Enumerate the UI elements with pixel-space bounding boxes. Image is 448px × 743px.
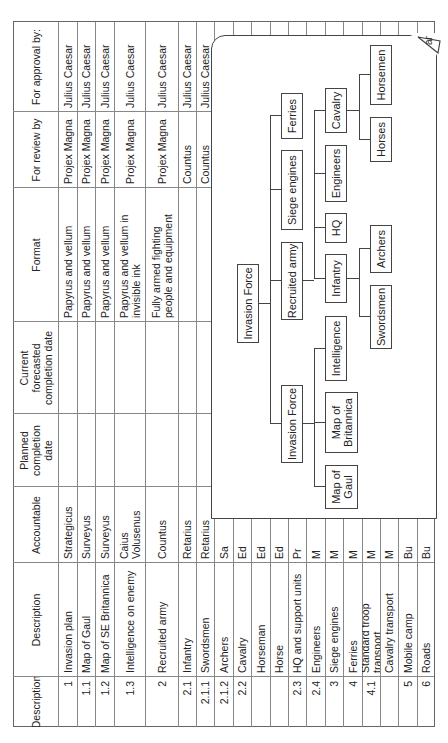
table-cell-id [251, 677, 270, 727]
table-cell-description: Map of Gaul [77, 563, 95, 677]
connector-line [270, 280, 281, 281]
connector-line [359, 316, 370, 317]
table-cell-accountable: Retarius [178, 487, 196, 563]
table-cell-forecast [77, 322, 95, 414]
table-cell-id: 1.2 [95, 677, 114, 727]
table-cell-review: Projex Magna [114, 112, 145, 188]
table-cell-description: Mobile camp [398, 563, 417, 677]
connector-line [347, 110, 359, 111]
connector-line [303, 423, 314, 424]
connector-line [359, 75, 360, 140]
connector-line [359, 74, 370, 75]
column-header-format: Format [13, 188, 58, 322]
column-header-forecast: Current forecasted completion date [13, 322, 58, 414]
table-cell-description: HQ and support units [288, 563, 306, 677]
table-cell-planned [145, 414, 178, 487]
table-cell-id: 1.3 [114, 677, 145, 727]
table-cell-approval: Julius Caesar [95, 22, 114, 112]
table-cell-format: Papyrus and vellum [77, 188, 95, 322]
connector-line [314, 486, 325, 487]
table-cell-review: Projex Magna [77, 112, 95, 188]
table-cell-format [178, 188, 196, 322]
table-cell-description: Intelligence on enemy [114, 563, 145, 677]
connector-line [314, 110, 325, 111]
table-cell-description: Archers [214, 563, 233, 677]
table-cell-accountable: Surveyus [95, 487, 114, 563]
column-header-description: Description [13, 563, 58, 677]
table-cell-description: Invasion plan [58, 563, 77, 677]
table-cell-planned [114, 414, 145, 487]
connector-line [359, 139, 370, 140]
table-cell-format: Fully armed fighting people and equipmen… [145, 188, 178, 322]
table-cell-accountable: Countus [145, 487, 178, 563]
column-header-review: For review by [13, 112, 58, 188]
table-cell-description: Siege engines [325, 563, 343, 677]
wbs-node-swordsmen: Swordsmen [370, 285, 392, 349]
column-header-planned: Planned completion date [13, 414, 58, 487]
table-cell-id: 4.1 [362, 677, 380, 727]
table-cell-description: Standard troop transport [362, 563, 380, 677]
connector-line [314, 173, 325, 174]
table-cell-accountable: Surveyus [77, 487, 95, 563]
connector-line [359, 249, 360, 317]
table-cell-description: Cavalry [233, 563, 251, 677]
wbs-node-cavalry: Cavalry [325, 88, 347, 133]
connector-line [314, 111, 315, 279]
table-cell-id [270, 677, 288, 727]
connector-line [270, 115, 281, 116]
table-cell-approval: Julius Caesar [77, 22, 95, 112]
table-cell-id: 2.1.1 [196, 677, 214, 727]
table-cell-id: 2 [145, 677, 178, 727]
table-cell-review: Projex Magna [58, 112, 77, 188]
wbs-node-map-gaul: Map of Gaul [325, 465, 358, 509]
table-cell-approval: Julius Caesar [58, 22, 77, 112]
connector-line [270, 189, 281, 190]
table-cell-description: Recruited army [145, 563, 178, 677]
table-cell-format: Papyrus and vellum in invisible ink [114, 188, 145, 322]
table-cell-description: Engineers [306, 563, 325, 677]
wbs-node-infantry: Infantry [325, 254, 347, 303]
wbs-node-horsemen: Horsemen [370, 45, 392, 105]
table-cell-id: 6 [417, 677, 434, 727]
column-header-approval: For approval by: [13, 22, 58, 112]
table-cell-approval: Julius Caesar [145, 22, 178, 112]
wbs-node-root: Invasion Force [237, 264, 259, 343]
table-cell-approval: Julius Caesar [114, 22, 145, 112]
connector-line [270, 423, 281, 424]
table-cell-description: Map of SE Britannica [95, 563, 114, 677]
connector-line [314, 278, 325, 279]
wbs-node-ferries: Ferries [281, 93, 303, 139]
table-cell-format: Papyrus and vellum [58, 188, 77, 322]
table-cell-accountable: Caius Volusenus [114, 487, 145, 563]
table-cell-forecast [145, 322, 178, 414]
table-cell-id: 3 [325, 677, 343, 727]
table-cell-review: Countus [178, 112, 196, 188]
table-cell-description: Infantry [178, 563, 196, 677]
wbs-node-intelligence: Intelligence [325, 316, 347, 381]
table-cell-id: 2.1 [178, 677, 196, 727]
table-cell-forecast [95, 322, 114, 414]
table-cell-description: Cavalry transport [380, 563, 398, 677]
wbs-node-siege: Siege engines [281, 150, 303, 230]
connector-line [314, 348, 325, 349]
table-cell-review: Projex Magna [145, 112, 178, 188]
table-cell-planned [58, 414, 77, 487]
table-cell-format: Papyrus and vellum [95, 188, 114, 322]
connector-line [347, 278, 359, 279]
column-header-id: Description [13, 677, 58, 727]
table-cell-id: 2.2 [233, 677, 251, 727]
page-curl-label: ar [424, 36, 434, 45]
connector-line [359, 248, 370, 249]
table-cell-id: 2.3 [288, 677, 306, 727]
connector-line [314, 349, 315, 487]
table-cell-review: Projex Magna [95, 112, 114, 188]
table-cell-id: 2.1.2 [214, 677, 233, 727]
table-cell-id: 1 [58, 677, 77, 727]
column-header-accountable: Accountable [13, 487, 58, 563]
connector-line [314, 422, 325, 423]
wbs-node-horses: Horses [370, 117, 392, 162]
table-cell-id [380, 677, 398, 727]
connector-line [270, 116, 271, 424]
wbs-node-map-britannica: Map of Britannica [325, 392, 358, 453]
table-cell-planned [95, 414, 114, 487]
